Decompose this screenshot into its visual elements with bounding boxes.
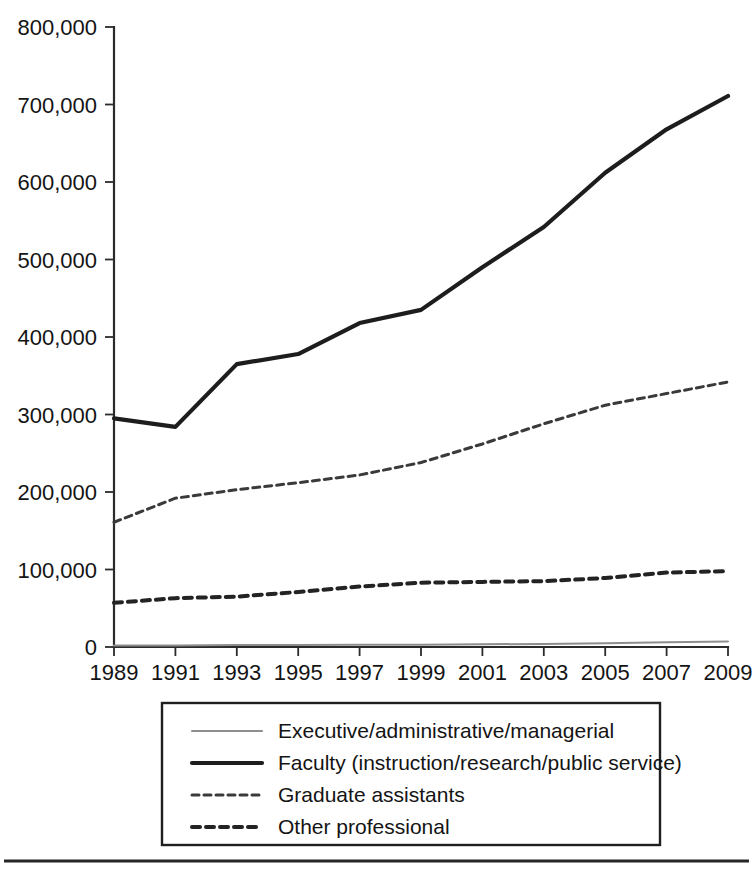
x-tick-label: 1993: [212, 660, 261, 685]
y-tick-label: 200,000: [17, 480, 97, 505]
line-chart-figure: 0100,000200,000300,000400,000500,000600,…: [0, 0, 753, 879]
legend-label-3: Graduate assistants: [278, 783, 465, 806]
legend-label-2: Faculty (instruction/research/public ser…: [278, 751, 682, 774]
x-tick-label: 1991: [151, 660, 200, 685]
x-tick-label: 1997: [335, 660, 384, 685]
x-tick-label: 2005: [581, 660, 630, 685]
x-tick-label: 1995: [274, 660, 323, 685]
x-tick-label: 1989: [90, 660, 139, 685]
y-tick-label: 0: [85, 635, 97, 660]
y-tick-label: 300,000: [17, 403, 97, 428]
y-tick-label: 700,000: [17, 93, 97, 118]
y-tick-label: 400,000: [17, 325, 97, 350]
y-axis-tick-labels: 0100,000200,000300,000400,000500,000600,…: [17, 15, 97, 660]
x-tick-label: 2007: [642, 660, 691, 685]
x-tick-label: 2003: [519, 660, 568, 685]
y-tick-label: 800,000: [17, 15, 97, 40]
x-axis-tick-labels: 1989199119931995199719992001200320052007…: [90, 660, 753, 685]
legend-label-4: Other professional: [278, 815, 450, 838]
x-tick-label: 1999: [397, 660, 446, 685]
y-tick-label: 600,000: [17, 170, 97, 195]
y-tick-label: 500,000: [17, 248, 97, 273]
y-tick-label: 100,000: [17, 558, 97, 583]
x-tick-label: 2009: [704, 660, 753, 685]
x-tick-label: 2001: [458, 660, 507, 685]
legend-label-1: Executive/administrative/managerial: [278, 719, 614, 742]
